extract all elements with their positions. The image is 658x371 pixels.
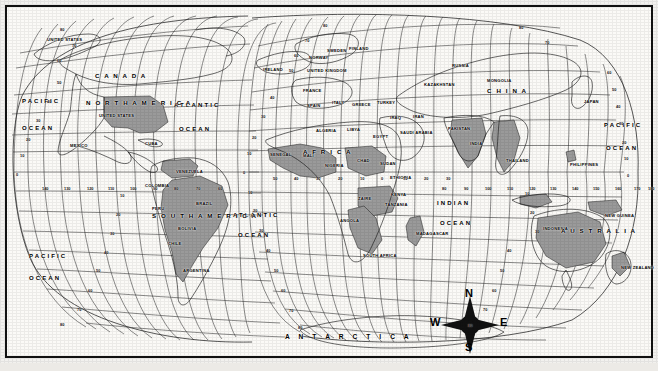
graticule-west [12,16,285,342]
world-map-screenshot: PACIFICOCEANPACIFICOCEANATLANTICOCEANATL… [0,0,658,371]
map-graphics [0,0,658,371]
compass-south-label: S [465,341,472,353]
coastlines [34,28,631,348]
compass-north-label: N [465,287,473,299]
compass-east-label: E [500,316,507,328]
scan-bottom-edge [0,363,658,371]
graticule-east [249,14,638,342]
compass-west-label: W [430,316,440,328]
